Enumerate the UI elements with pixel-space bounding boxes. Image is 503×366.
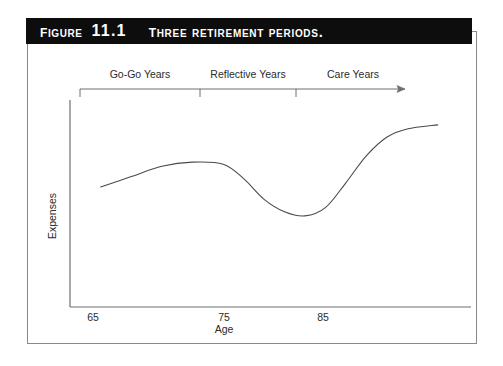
period-arrow-icon <box>397 86 405 93</box>
period-label-reflective: Reflective Years <box>210 68 285 80</box>
period-bracket-group <box>80 86 405 98</box>
period-label-care: Care Years <box>327 68 379 80</box>
period-label-go-go: Go-Go Years <box>110 68 171 80</box>
x-tick-label-85: 85 <box>317 311 329 323</box>
expense-curve-line <box>101 125 438 216</box>
x-tick-label-65: 65 <box>87 311 99 323</box>
y-axis-title: Expenses <box>46 193 58 239</box>
x-axis-title: Age <box>215 323 234 335</box>
chart-plot-area: Go-Go Years Reflective Years Care Years … <box>27 31 477 344</box>
figure-root: Figure 11.1 Three retirement periods. Go… <box>0 0 503 366</box>
x-tick-label-75: 75 <box>218 311 230 323</box>
